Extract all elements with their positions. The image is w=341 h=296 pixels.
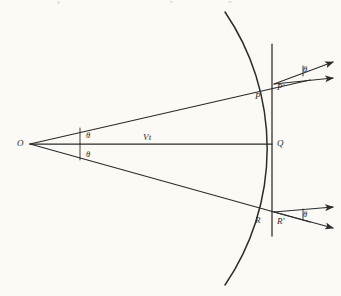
label-point-r: R (255, 216, 261, 225)
label-point-p: P (255, 92, 261, 101)
wavefront-arc-group (225, 12, 267, 285)
label-point-q: Q (277, 139, 284, 148)
diagram-svg (0, 0, 341, 296)
label-distance-vt: Vt (143, 133, 151, 142)
scan-speck (170, 1, 173, 3)
label-point-r-prime: R' (277, 217, 284, 226)
scan-speck (57, 1, 60, 4)
ray-upper-op (30, 80, 310, 144)
label-angle-theta-lower-at-o: θ (86, 150, 90, 159)
segment-group (30, 44, 310, 236)
label-point-o: O (17, 139, 24, 148)
figure-canvas: O Q P P' R R' Vt θ θ θ θ (0, 0, 341, 296)
ray-lower-or (30, 144, 310, 222)
label-angle-theta-top-right: θ (303, 65, 307, 74)
scan-speck (228, 1, 232, 3)
label-point-p-prime: P' (277, 83, 284, 92)
label-angle-theta-bottom-right: θ (303, 210, 307, 219)
label-angle-theta-upper-at-o: θ (86, 131, 90, 140)
wavefront-arc (225, 12, 267, 285)
